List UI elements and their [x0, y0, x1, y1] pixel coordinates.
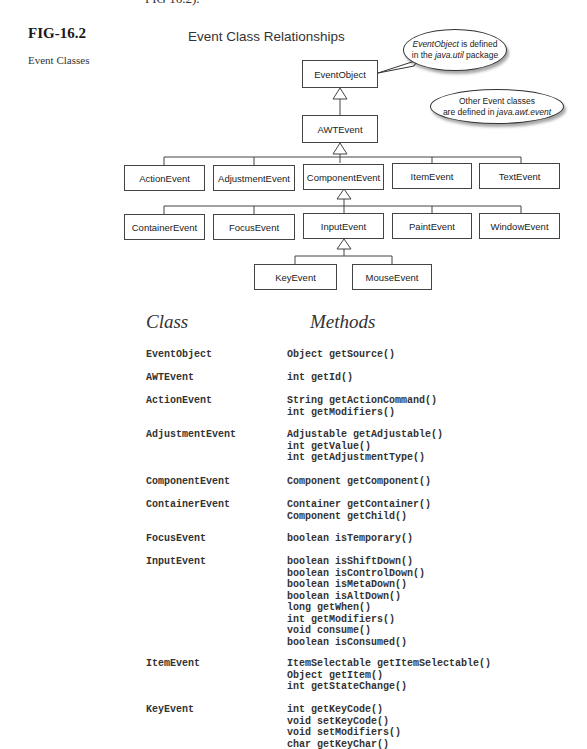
method: Component getChild() — [287, 511, 431, 523]
node-container-event: ContainerEvent — [124, 214, 205, 240]
class-name: FocusEvent — [146, 533, 206, 545]
method-list: boolean isTemporary() — [287, 533, 413, 545]
method-list: ItemSelectable getItemSelectable() Objec… — [287, 658, 491, 693]
method: int getId() — [287, 372, 353, 384]
method: long getWhen() — [287, 602, 425, 614]
class-name: AdjustmentEvent — [146, 429, 236, 441]
method-list: Container getContainer() Component getCh… — [287, 499, 431, 522]
node-action-event: ActionEvent — [124, 165, 205, 191]
inheritance-arrow-icon — [337, 239, 351, 249]
method: boolean isAltDown() — [287, 591, 425, 603]
method: boolean isShiftDown() — [287, 556, 425, 568]
column-header-class: Class — [146, 311, 188, 333]
method: boolean isControlDown() — [287, 568, 425, 580]
node-window-event: WindowEvent — [479, 213, 560, 239]
node-input-event: InputEvent — [303, 213, 384, 239]
class-name: KeyEvent — [146, 704, 194, 716]
method: Object getItem() — [287, 670, 491, 682]
method: int getModifiers() — [287, 407, 437, 419]
inheritance-arrow-icon — [333, 143, 347, 154]
node-mouse-event: MouseEvent — [352, 264, 432, 290]
node-paint-event: PaintEvent — [392, 213, 472, 239]
class-name: ComponentEvent — [146, 476, 230, 488]
method: boolean isMetaDown() — [287, 579, 425, 591]
node-event-object: EventObject — [302, 60, 378, 88]
node-text-event: TextEvent — [479, 163, 560, 189]
method-list: Object getSource() — [287, 349, 395, 361]
method: Component getComponent() — [287, 476, 431, 488]
method: void consume() — [287, 625, 425, 637]
method: boolean isTemporary() — [287, 533, 413, 545]
method: int getAdjustmentType() — [287, 452, 443, 464]
class-name: AWTEvent — [146, 372, 194, 384]
method: void setKeyCode() — [287, 716, 401, 728]
method: int getValue() — [287, 441, 443, 453]
class-name: EventObject — [146, 349, 212, 361]
callout-event-object-package: EventObject is defined in the java.util … — [403, 29, 507, 71]
method: Adjustable getAdjustable() — [287, 429, 443, 441]
node-key-event: KeyEvent — [254, 264, 337, 290]
method: int getStateChange() — [287, 681, 491, 693]
class-name: InputEvent — [146, 556, 206, 568]
method: char getKeyChar() — [287, 739, 401, 749]
node-item-event: ItemEvent — [392, 163, 472, 189]
inheritance-arrow-icon — [337, 189, 351, 199]
method: boolean isConsumed() — [287, 637, 425, 649]
inheritance-arrow-icon — [333, 88, 347, 99]
method-list: Adjustable getAdjustable() int getValue(… — [287, 429, 443, 464]
method: int getKeyCode() — [287, 704, 401, 716]
method-list: String getActionCommand() int getModifie… — [287, 395, 437, 418]
node-awt-event: AWTEvent — [302, 115, 378, 143]
method: Container getContainer() — [287, 499, 431, 511]
method: String getActionCommand() — [287, 395, 437, 407]
class-name: ContainerEvent — [146, 499, 230, 511]
method: Object getSource() — [287, 349, 395, 361]
node-component-event: ComponentEvent — [303, 164, 384, 190]
method-list: Component getComponent() — [287, 476, 431, 488]
callout-other-events-package: Other Event classes are defined in java.… — [430, 89, 564, 124]
node-focus-event: FocusEvent — [213, 214, 295, 240]
node-adjustment-event: AdjustmentEvent — [213, 165, 295, 191]
method: int getModifiers() — [287, 614, 425, 626]
method: void setModifiers() — [287, 727, 401, 739]
method-list: int getKeyCode() void setKeyCode() void … — [287, 704, 401, 749]
class-name: ItemEvent — [146, 658, 200, 670]
method-list: int getId() — [287, 372, 353, 384]
method-list: boolean isShiftDown() boolean isControlD… — [287, 556, 425, 648]
method: ItemSelectable getItemSelectable() — [287, 658, 491, 670]
column-header-methods: Methods — [310, 311, 375, 333]
class-name: ActionEvent — [146, 395, 212, 407]
